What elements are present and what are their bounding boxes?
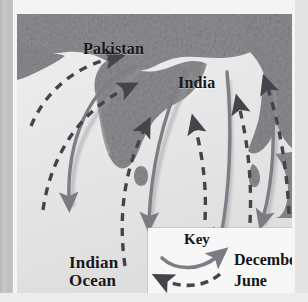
map-label-india: India [178,75,215,92]
page-gutter-bottom [0,293,308,302]
map-label-indian-ocean-line2: Ocean [69,272,118,290]
map-legend: Key December June [148,228,292,293]
figure-root: Pakistan India Indian Ocean [0,0,308,302]
monsoon-map: Pakistan India Indian Ocean [17,14,292,293]
legend-label-december: December [234,251,292,269]
page-gutter-right [295,0,308,302]
map-label-indian-ocean: Indian Ocean [69,254,118,290]
legend-label-june: June [234,272,267,290]
legend-december-arrow [162,256,218,268]
page-gutter-left [0,0,13,302]
legend-june-arrow [164,274,220,285]
map-label-pakistan: Pakistan [83,41,144,58]
map-label-indian-ocean-line1: Indian [69,254,118,272]
legend-title: Key [184,231,210,248]
